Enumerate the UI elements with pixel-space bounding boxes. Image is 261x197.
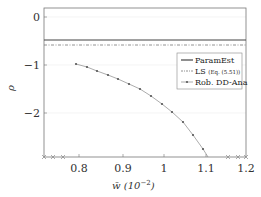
legend: ParamEst LS (Eq. (5.51)) Rob. DD-Ana <box>177 53 248 89</box>
x-axis-label: w̄ (10−2) <box>112 179 155 191</box>
legend-rob-dd-ana: Rob. DD-Ana <box>195 78 248 87</box>
y-tick-label: −2 <box>24 107 40 120</box>
x-tick-label: 1.2 <box>237 162 255 175</box>
x-tick-label: 1 <box>161 162 168 175</box>
chart: 0 −1 −2 ρ 0.8 0.9 1 1.1 1.2 w̄ (10−2) <box>0 0 261 197</box>
x-tick-label: 1.1 <box>197 162 215 175</box>
x-axis: 0.8 0.9 1 1.1 1.2 w̄ (10−2) <box>70 154 255 191</box>
y-axis-label: ρ <box>5 85 16 92</box>
x-tick-label: 0.9 <box>114 162 132 175</box>
legend-paramest: ParamEst <box>195 56 235 65</box>
y-tick-label: 0 <box>33 11 40 24</box>
legend-ls: LS (Eq. (5.51)) <box>195 67 240 76</box>
y-tick-label: −1 <box>24 59 40 72</box>
x-tick-label: 0.8 <box>70 162 88 175</box>
y-axis: 0 −1 −2 ρ <box>5 11 47 120</box>
